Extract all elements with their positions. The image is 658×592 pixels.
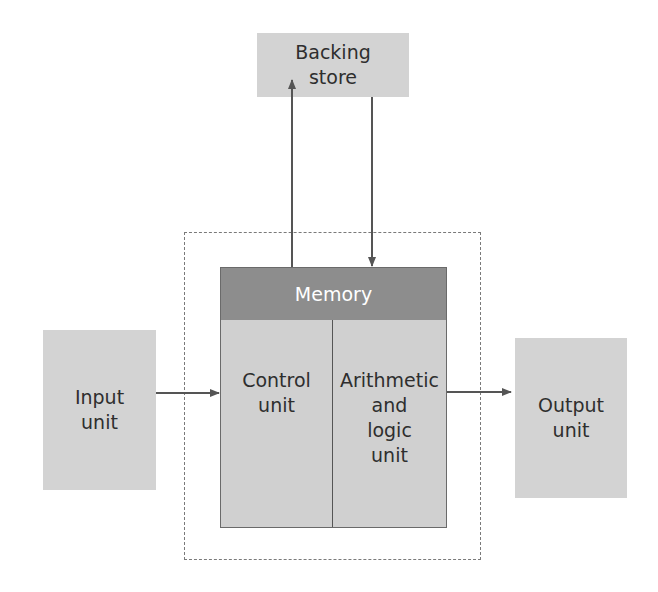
arrows-layer [0, 0, 658, 592]
